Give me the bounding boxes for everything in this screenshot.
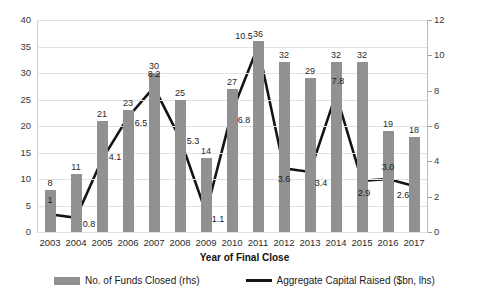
bar-value-label: 11	[71, 162, 80, 172]
x-axis-tick-label: 2015	[351, 237, 372, 248]
line-value-label: 6.8	[238, 115, 251, 125]
x-axis-tick-label: 2003	[39, 237, 60, 248]
line-value-label: 10.5	[235, 31, 253, 41]
bar	[175, 100, 186, 233]
x-axis-title: Year of Final Close	[0, 252, 489, 263]
right-axis-tick-label: 10	[434, 51, 445, 61]
bar-value-label: 32	[331, 50, 341, 60]
bar	[409, 137, 420, 232]
line-value-label: 4.1	[109, 152, 122, 162]
bar-swatch-icon	[54, 277, 80, 285]
bar	[305, 78, 316, 232]
bar	[149, 73, 160, 232]
bar	[227, 89, 238, 232]
chart-legend: No. of Funds Closed (rhs) Aggregate Capi…	[0, 275, 489, 286]
bar-value-label: 18	[409, 125, 419, 135]
left-axis-tick-label: 30	[20, 68, 31, 78]
x-axis-tick-label: 2013	[299, 237, 320, 248]
bar-value-label: 19	[383, 119, 393, 129]
line-value-label: 5.3	[187, 136, 200, 146]
right-axis-tick-label: 2	[434, 192, 439, 202]
line-value-label: 2.6	[397, 190, 410, 200]
x-axis-tick-label: 2017	[403, 237, 424, 248]
x-axis-tick-label: 2004	[65, 237, 86, 248]
bar-value-label: 21	[97, 109, 107, 119]
bar	[123, 110, 134, 232]
bar-value-label: 25	[175, 88, 185, 98]
gridline	[37, 47, 427, 48]
line-value-label: 3.6	[278, 174, 291, 184]
gridline	[37, 232, 427, 233]
right-axis-tick-mark	[428, 161, 432, 162]
x-axis-tick-label: 2008	[169, 237, 190, 248]
line-value-label: 6.5	[135, 118, 148, 128]
left-axis-tick-label: 5	[26, 201, 31, 211]
bar-value-label: 36	[253, 29, 263, 39]
bar	[253, 41, 264, 232]
bar	[383, 131, 394, 232]
x-axis-tick-label: 2014	[325, 237, 346, 248]
line-value-label: 8.2	[148, 69, 161, 79]
x-axis-tick-label: 2005	[91, 237, 112, 248]
x-axis-tick-label: 2009	[195, 237, 216, 248]
right-axis-tick-mark	[428, 91, 432, 92]
line-value-label: 2.9	[358, 188, 371, 198]
bar-value-label: 27	[227, 77, 237, 87]
left-axis-tick-label: 10	[20, 174, 31, 184]
bar-value-label: 23	[123, 98, 133, 108]
bar	[97, 121, 108, 232]
plot-area	[37, 20, 427, 232]
x-axis-tick-label: 2006	[117, 237, 138, 248]
gridline	[37, 20, 427, 21]
right-axis-tick-mark	[428, 197, 432, 198]
line-value-label: 3.0	[382, 162, 395, 172]
right-axis-tick-label: 8	[434, 86, 439, 96]
left-axis-tick-label: 0	[26, 227, 31, 237]
line-value-label: 0.8	[83, 219, 96, 229]
bar	[331, 62, 342, 232]
right-axis-tick-label: 4	[434, 157, 439, 167]
gridline	[37, 73, 427, 74]
x-axis-tick-label: 2010	[221, 237, 242, 248]
right-axis-tick-label: 0	[434, 227, 439, 237]
bar-value-label: 14	[201, 146, 211, 156]
bar-value-label: 8	[47, 178, 52, 188]
bar	[357, 62, 368, 232]
bar-value-label: 32	[357, 50, 367, 60]
bar	[201, 158, 212, 232]
line-value-label: 7.8	[332, 76, 345, 86]
line-value-label: 3.4	[315, 178, 328, 188]
line-value-label: 1	[47, 195, 52, 205]
left-axis-tick-label: 20	[20, 121, 31, 131]
legend-label-capital-raised: Aggregate Capital Raised ($bn, lhs)	[277, 275, 435, 286]
right-axis-tick-mark	[428, 126, 432, 127]
left-axis-tick-label: 25	[20, 95, 31, 105]
legend-label-funds-closed: No. of Funds Closed (rhs)	[85, 275, 200, 286]
right-axis-tick-mark	[428, 232, 432, 233]
right-axis-tick-label: 12	[434, 15, 445, 25]
bar	[71, 174, 82, 232]
legend-item-funds-closed: No. of Funds Closed (rhs)	[54, 275, 200, 286]
x-axis-tick-label: 2016	[377, 237, 398, 248]
x-axis-tick-label: 2007	[143, 237, 164, 248]
x-axis-tick-label: 2011	[248, 237, 268, 248]
left-axis-tick-label: 15	[20, 148, 31, 158]
bar-value-label: 32	[279, 50, 289, 60]
left-axis-tick-label: 35	[20, 42, 31, 52]
left-axis-tick-label: 40	[20, 15, 31, 25]
legend-item-capital-raised: Aggregate Capital Raised ($bn, lhs)	[246, 275, 435, 286]
right-axis-tick-mark	[428, 55, 432, 56]
bar	[279, 62, 290, 232]
chart-container: 0510152025303540 024681012 2003200420052…	[0, 0, 489, 297]
x-axis-tick-label: 2012	[273, 237, 294, 248]
line-value-label: 1.1	[212, 214, 225, 224]
line-swatch-icon	[246, 279, 272, 282]
right-axis-tick-mark	[428, 20, 432, 21]
right-axis-tick-label: 6	[434, 121, 439, 131]
bar-value-label: 29	[305, 66, 315, 76]
